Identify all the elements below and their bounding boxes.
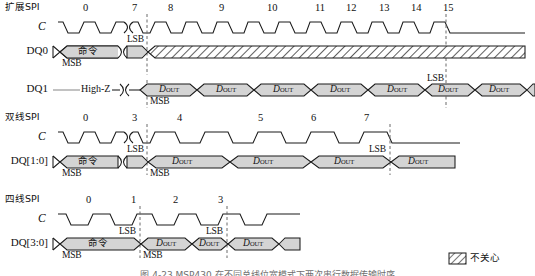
legend-label: 不关心: [470, 253, 500, 263]
lsb-marker: LSB: [427, 74, 444, 84]
highz-label: High-Z: [81, 84, 110, 94]
data-cell-label: DOUT: [243, 239, 263, 249]
cycle-number: 3: [132, 113, 137, 124]
clock-extended-spi: [58, 22, 525, 33]
msb-marker: MSB: [150, 97, 169, 107]
lsb-marker: LSB: [119, 227, 136, 237]
lsb-marker: LSB: [206, 227, 223, 237]
cycle-number: 15: [443, 3, 454, 14]
cycle-number: 7: [364, 113, 369, 124]
data-cell-label: DOUT: [253, 157, 273, 167]
timing-diagram-canvas: [0, 0, 535, 276]
timing-diagram-figure: 扩展SPI C DQ0 DQ1 0 7 8 9 10 11 12 13 14 1…: [0, 0, 535, 276]
cycle-number: 10: [267, 3, 278, 14]
cycle-number: 4: [177, 113, 182, 124]
cycle-number: 0: [83, 113, 88, 124]
data-cell-label: DOUT: [156, 239, 176, 249]
section-title-quad-spi: 四线SPI: [5, 194, 40, 204]
cycle-number: 3: [218, 195, 223, 206]
data-cell-label: DOUT: [330, 85, 350, 95]
cycle-number: 9: [219, 3, 224, 14]
cycle-number: 12: [346, 3, 357, 14]
section-title-dual-spi: 双线SPI: [5, 112, 40, 122]
cycle-number: 8: [168, 3, 173, 14]
lsb-marker: LSB: [127, 35, 144, 45]
cycle-number: 5: [258, 113, 263, 124]
msb-marker: MSB: [143, 251, 162, 261]
cycle-number: 6: [311, 113, 316, 124]
msb-marker: MSB: [150, 169, 169, 179]
cycle-number: 1: [131, 195, 136, 206]
clock-quad-spi: [58, 214, 300, 225]
cycle-number: 14: [411, 3, 422, 14]
data-cell-label: DOUT: [408, 157, 428, 167]
pin-label-clock-quad: C: [38, 213, 46, 225]
data-cell-label: DOUT: [334, 157, 354, 167]
pin-label-clock-dual: C: [38, 131, 46, 143]
data-cell-label: DOUT: [216, 85, 236, 95]
clock-dual-spi: [58, 132, 460, 143]
data-cell-label: DOUT: [159, 85, 179, 95]
dq0-waveform: [53, 46, 525, 58]
cycle-number: 7: [132, 3, 137, 14]
legend-hatch-swatch: [449, 253, 466, 264]
cycle-number: 0: [83, 3, 88, 14]
data-cell-label: DOUT: [387, 85, 407, 95]
data-cell-label: DOUT: [438, 85, 458, 95]
cycle-number: 11: [315, 3, 325, 14]
bus-label-command: 命令: [78, 46, 98, 56]
cycle-number: 13: [379, 3, 390, 14]
pin-label-dq30: DQ[3:0]: [2, 237, 48, 248]
bus-label-command: 命令: [88, 238, 108, 248]
data-cell-label: DOUT: [489, 85, 509, 95]
lsb-marker: LSB: [369, 145, 386, 155]
lsb-marker: LSB: [127, 145, 144, 155]
msb-marker: MSB: [62, 59, 81, 69]
pin-label-dq10: DQ[1:0]: [2, 155, 48, 166]
pin-label-dq1: DQ1: [12, 83, 48, 94]
data-cell-label: DOUT: [273, 85, 293, 95]
figure-caption: 图 4-23 MSP430 在不同总线位宽模式下两次串行数据传输时序: [0, 268, 535, 276]
msb-marker: MSB: [62, 251, 81, 261]
pin-label-clock-extended: C: [38, 21, 46, 33]
data-cell-label: DOUT: [172, 157, 192, 167]
cycle-number: 0: [86, 195, 91, 206]
dq10-waveform: [53, 156, 148, 168]
msb-marker: MSB: [62, 169, 81, 179]
data-cell-label: DOUT: [199, 239, 219, 249]
cycle-number: 2: [173, 195, 178, 206]
bus-label-command: 命令: [78, 156, 98, 166]
section-title-extended-spi: 扩展SPI: [5, 2, 40, 12]
pin-label-dq0: DQ0: [12, 45, 48, 56]
